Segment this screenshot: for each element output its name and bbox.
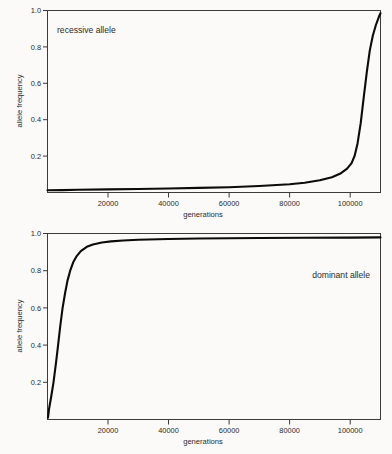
x-tick-label: 40000 <box>158 199 179 208</box>
y-tick-label: 1.0 <box>31 6 41 15</box>
series-annotation-dominant: dominant allele <box>312 270 370 280</box>
y-axis-ticks <box>43 11 48 157</box>
x-tick-label: 40000 <box>158 426 179 435</box>
y-tick-label: 0.6 <box>31 304 41 313</box>
y-axis-title: allele frequency <box>15 299 24 352</box>
x-axis-tick-labels: 20000 40000 60000 80000 100000 <box>98 426 363 435</box>
y-axis-tick-labels: 1.0 0.8 0.6 0.4 0.2 <box>31 6 41 161</box>
y-axis-title: allele frequency <box>15 74 24 127</box>
chart-panel-dominant: 1.0 0.8 0.6 0.4 0.2 20000 40000 60000 80… <box>0 224 392 454</box>
x-axis-ticks <box>108 193 350 198</box>
x-tick-label: 100000 <box>338 199 363 208</box>
y-tick-label: 0.4 <box>31 115 41 124</box>
x-tick-label: 80000 <box>279 199 300 208</box>
x-tick-label: 20000 <box>98 426 119 435</box>
x-tick-label: 60000 <box>219 426 240 435</box>
y-tick-label: 0.2 <box>31 152 41 161</box>
x-axis-tick-labels: 20000 40000 60000 80000 100000 <box>98 199 363 208</box>
plot-frame <box>48 234 381 420</box>
y-tick-label: 0.4 <box>31 341 41 350</box>
recessive-allele-plot: 1.0 0.8 0.6 0.4 0.2 20000 40000 60000 80… <box>0 0 392 224</box>
x-axis-title: generations <box>183 437 223 446</box>
dominant-allele-plot: 1.0 0.8 0.6 0.4 0.2 20000 40000 60000 80… <box>0 224 392 454</box>
series-annotation-recessive: recessive allele <box>57 25 116 35</box>
figure-page: 1.0 0.8 0.6 0.4 0.2 20000 40000 60000 80… <box>0 0 392 454</box>
data-curve-recessive <box>48 13 381 190</box>
x-axis-title: generations <box>183 210 223 219</box>
y-tick-label: 0.6 <box>31 79 41 88</box>
chart-panel-recessive: 1.0 0.8 0.6 0.4 0.2 20000 40000 60000 80… <box>0 0 392 224</box>
y-axis-ticks <box>43 234 48 383</box>
x-tick-label: 60000 <box>219 199 240 208</box>
y-tick-label: 0.8 <box>31 43 41 52</box>
x-tick-label: 100000 <box>338 426 363 435</box>
y-axis-tick-labels: 1.0 0.8 0.6 0.4 0.2 <box>31 229 41 387</box>
plot-frame <box>48 11 381 193</box>
data-curve-dominant <box>48 237 381 417</box>
y-tick-label: 1.0 <box>31 229 41 238</box>
x-tick-label: 20000 <box>98 199 119 208</box>
x-tick-label: 80000 <box>279 426 300 435</box>
x-axis-ticks <box>108 420 350 425</box>
y-tick-label: 0.8 <box>31 266 41 275</box>
y-tick-label: 0.2 <box>31 378 41 387</box>
